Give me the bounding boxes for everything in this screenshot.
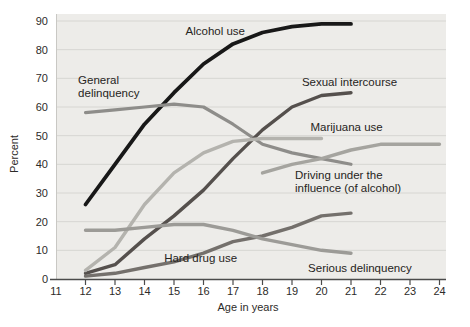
y-tick-label-10: 10 [36,244,48,256]
series-label-marijuana-use: Marijuana use [310,121,382,133]
x-tick-label-11: 11 [50,285,61,297]
y-tick-label-70: 70 [36,72,48,84]
x-tick-label-24: 24 [433,285,445,297]
x-tick-label-17: 17 [227,285,239,297]
y-tick-label-30: 30 [36,187,48,199]
x-tick-label-23: 23 [404,285,416,297]
chart-canvas: 0102030405060708090111213141516171819202… [0,0,470,327]
series-label-alcohol-use: Alcohol use [186,25,245,37]
y-tick-label-60: 60 [36,101,48,113]
x-tick-label-21: 21 [345,285,357,297]
x-axis-title: Age in years [217,301,278,313]
series-label-sexual-intercourse: Sexual intercourse [302,76,397,88]
x-tick-label-16: 16 [197,285,209,297]
x-tick-label-13: 13 [109,285,121,297]
x-tick-label-20: 20 [315,285,327,297]
series-label-hard-drug-use: Hard drug use [164,252,237,264]
risk-behavior-line-chart: 0102030405060708090111213141516171819202… [0,0,470,327]
x-tick-label-15: 15 [168,285,180,297]
y-tick-label-20: 20 [36,216,48,228]
y-tick-label-80: 80 [36,44,48,56]
y-axis-title: Percent [8,135,20,173]
x-tick-label-22: 22 [374,285,386,297]
x-tick-label-12: 12 [79,285,91,297]
x-tick-label-19: 19 [286,285,298,297]
x-tick-label-14: 14 [138,285,150,297]
y-tick-label-0: 0 [42,273,48,285]
y-tick-label-40: 40 [36,158,48,170]
x-tick-label-18: 18 [256,285,268,297]
series-label-serious-delinquency: Serious delinquency [308,262,412,274]
y-tick-label-90: 90 [36,15,48,27]
y-tick-label-50: 50 [36,130,48,142]
